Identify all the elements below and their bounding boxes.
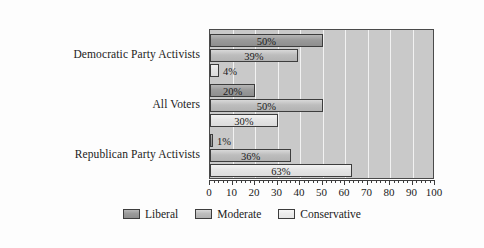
x-tick-label: 100 [426, 186, 443, 198]
bar-row: 36% [210, 149, 291, 162]
x-tick-minor [394, 180, 395, 183]
x-tick-minor [335, 180, 336, 183]
legend-swatch-liberal [123, 209, 140, 219]
x-tick-minor [376, 180, 377, 183]
x-tick-minor [214, 180, 215, 183]
bar-group-republican-party-activists: 1% 36% 63% [210, 133, 433, 180]
bar-liberal-republican [210, 134, 213, 147]
legend-swatch-moderate [195, 209, 212, 219]
x-tick-minor [268, 180, 269, 183]
bar-value-label: 30% [210, 115, 278, 126]
x-tick-minor [358, 180, 359, 183]
x-tick-minor [308, 180, 309, 183]
x-tick-minor [259, 180, 260, 183]
x-tick-minor [272, 180, 273, 183]
bar-groups: 50% 39% 4% 20% 50% [210, 30, 433, 178]
x-tick-minor [380, 180, 381, 183]
x-tick-major [344, 180, 345, 185]
legend-item-moderate[interactable]: Moderate [195, 208, 261, 220]
legend-item-conservative[interactable]: Conservative [278, 208, 361, 220]
x-tick-minor [218, 180, 219, 183]
bar-row: 39% [210, 49, 298, 62]
bar-conservative-democratic [210, 64, 219, 77]
x-tick-minor [295, 180, 296, 183]
bar-value-label: 1% [214, 135, 231, 146]
legend-label: Conservative [300, 208, 361, 220]
bar-value-label: 4% [220, 65, 237, 76]
category-label-all-voters: All Voters [152, 98, 200, 110]
x-tick-minor [227, 180, 228, 183]
x-tick-major [412, 180, 413, 185]
category-label-democratic-party-activists: Democratic Party Activists [73, 48, 200, 60]
x-axis: 0102030405060708090100 [209, 180, 434, 202]
x-tick-label: 10 [226, 186, 237, 198]
x-tick-minor [331, 180, 332, 183]
x-tick-minor [385, 180, 386, 183]
legend-label: Moderate [217, 208, 261, 220]
x-tick-minor [326, 180, 327, 183]
x-tick-label: 0 [206, 186, 212, 198]
x-tick-minor [241, 180, 242, 183]
x-tick-label: 70 [361, 186, 372, 198]
x-tick-label: 50 [316, 186, 327, 198]
bar-value-label: 36% [210, 150, 291, 161]
x-tick-minor [317, 180, 318, 183]
category-axis-labels: Democratic Party Activists All Voters Re… [0, 28, 204, 178]
bar-group-all-voters: 20% 50% 30% [210, 83, 433, 130]
x-tick-minor [425, 180, 426, 183]
x-tick-major [209, 180, 210, 185]
bar-value-label: 39% [210, 50, 298, 61]
x-tick-minor [340, 180, 341, 183]
x-tick-minor [430, 180, 431, 183]
x-tick-minor [236, 180, 237, 183]
x-tick-minor [245, 180, 246, 183]
x-tick-minor [362, 180, 363, 183]
x-tick-minor [421, 180, 422, 183]
x-tick-label: 90 [406, 186, 417, 198]
x-tick-minor [416, 180, 417, 183]
legend-swatch-conservative [278, 209, 295, 219]
bar-row: 63% [210, 164, 352, 177]
x-tick-label: 60 [339, 186, 350, 198]
x-tick-label: 30 [271, 186, 282, 198]
x-tick-minor [223, 180, 224, 183]
bar-row: 50% [210, 34, 323, 47]
x-tick-minor [407, 180, 408, 183]
x-tick-minor [286, 180, 287, 183]
x-tick-minor [263, 180, 264, 183]
bar-row: 50% [210, 99, 323, 112]
x-tick-major [434, 180, 435, 185]
x-tick-major [367, 180, 368, 185]
bar-row: 1% [210, 134, 213, 147]
x-tick-minor [349, 180, 350, 183]
x-tick-label: 40 [294, 186, 305, 198]
x-tick-label: 20 [249, 186, 260, 198]
x-tick-minor [281, 180, 282, 183]
bar-row: 30% [210, 114, 278, 127]
bar-chart: Democratic Party Activists All Voters Re… [0, 0, 484, 248]
legend-item-liberal[interactable]: Liberal [123, 208, 178, 220]
bar-group-democratic-party-activists: 50% 39% 4% [210, 33, 433, 80]
x-tick-minor [290, 180, 291, 183]
x-tick-minor [353, 180, 354, 183]
bar-row: 4% [210, 64, 219, 77]
category-label-republican-party-activists: Republican Party Activists [75, 148, 200, 160]
x-tick-major [232, 180, 233, 185]
legend: LiberalModerateConservative [0, 208, 484, 220]
x-tick-minor [304, 180, 305, 183]
bar-value-label: 63% [210, 165, 352, 176]
x-tick-minor [371, 180, 372, 183]
plot-area: 50% 39% 4% 20% 50% [209, 29, 434, 179]
bar-row: 20% [210, 84, 255, 97]
x-tick-major [254, 180, 255, 185]
x-tick-minor [313, 180, 314, 183]
x-tick-major [322, 180, 323, 185]
legend-label: Liberal [145, 208, 178, 220]
bar-value-label: 50% [210, 35, 323, 46]
bar-value-label: 50% [210, 100, 323, 111]
x-tick-minor [398, 180, 399, 183]
x-tick-major [389, 180, 390, 185]
x-tick-minor [250, 180, 251, 183]
bar-value-label: 20% [210, 85, 255, 96]
x-tick-minor [403, 180, 404, 183]
